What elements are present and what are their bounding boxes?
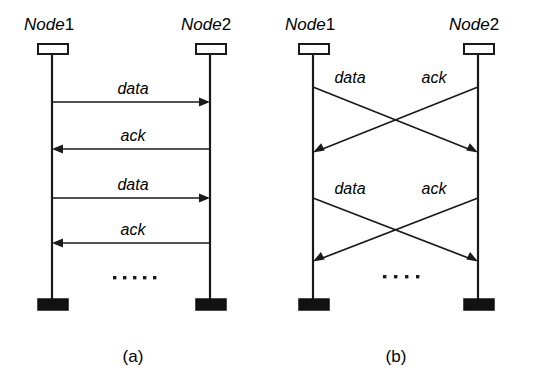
panel-a-right-node: Node2 [181,15,231,310]
panel-b-message-4-line [320,198,478,259]
panel-b-message-1-arrowhead [466,143,478,152]
panel-a-ellipsis-dot [113,276,116,279]
panel-a-message-2: ack [52,127,210,154]
panel-a-ellipsis-dot [133,276,136,279]
panel-a-left-node-bottom-box [38,299,68,310]
panel-b: Node1 Node2 data [285,15,499,366]
panel-a-message-1-label: data [117,80,148,97]
panel-b-message-2-arrowhead [313,143,325,152]
panel-b-right-node-top-box [464,44,494,54]
panel-b-message-4-arrowhead [313,252,325,261]
panel-a-ellipsis-dot [153,276,156,279]
panel-a-left-node-top-box [38,44,68,54]
panel-b-right-node: Node2 [449,15,499,310]
panel-a-message-1: data [52,80,210,107]
panel-b-left-node-label-word: Node [285,15,326,34]
panel-a-ellipsis [113,276,156,279]
panel-b-left-node-bottom-box [299,299,329,310]
panel-b-left-node-label: Node1 [285,15,335,34]
panel-a-left-node: Node1 [24,15,74,310]
panel-b-message-4-label: ack [422,180,448,197]
panel-a-right-node-label: Node2 [181,15,231,34]
panel-b-message-3-line [313,198,471,259]
panel-b-left-node-label-index: 1 [326,15,335,34]
panel-a-right-node-top-box [196,44,226,54]
panel-b-message-2-line [320,87,478,150]
panel-b-message-1-line [313,87,471,150]
panel-b-right-node-label: Node2 [449,15,499,34]
panel-a-right-node-bottom-box [196,299,226,310]
panel-b-ellipsis-dot [416,275,419,278]
panel-b-message-3-label: data [334,180,365,197]
panel-b-ellipsis-dot [383,275,386,278]
panel-a-left-node-label-word: Node [24,15,65,34]
panel-b-left-node: Node1 [285,15,335,310]
panel-a-message-4-label: ack [121,221,147,238]
panel-a-caption: (a) [123,347,144,366]
panel-a-right-node-label-index: 2 [222,15,231,34]
panel-a-right-node-label-word: Node [181,15,222,34]
panel-b-left-node-top-box [299,44,329,54]
panel-a-message-4-arrowhead [52,239,63,248]
panel-b-message-3: data [313,180,478,262]
panel-a-left-node-label-index: 1 [65,15,74,34]
panel-b-ellipsis-dot [394,275,397,278]
panel-b-message-2-label: ack [422,69,448,86]
panel-a-left-node-label: Node1 [24,15,74,34]
panel-a-message-3-arrowhead [199,194,210,203]
figure-canvas: Node1 Node2 data [0,0,543,380]
panel-a-message-3-label: data [117,176,148,193]
panel-a-message-3: data [52,176,210,203]
panel-b-message-3-arrowhead [466,252,478,261]
panel-a-message-1-arrowhead [199,98,210,107]
panel-a-message-2-label: ack [121,127,147,144]
panel-a: Node1 Node2 data [24,15,231,366]
panel-a-message-4: ack [52,221,210,248]
panel-b-ellipsis [383,275,419,278]
panel-b-message-1-label: data [334,69,365,86]
panel-a-message-2-arrowhead [52,145,63,154]
protocol-sequence-figure: Node1 Node2 data [0,0,543,380]
panel-a-ellipsis-dot [143,276,146,279]
panel-a-ellipsis-dot [123,276,126,279]
panel-b-message-1: data [313,69,478,153]
panel-b-caption: (b) [386,347,407,366]
panel-b-ellipsis-dot [405,275,408,278]
panel-b-right-node-label-word: Node [449,15,490,34]
panel-b-right-node-label-index: 2 [490,15,499,34]
panel-b-right-node-bottom-box [464,299,494,310]
